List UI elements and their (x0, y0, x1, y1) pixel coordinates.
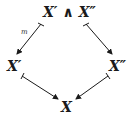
edge-label-m: m (21, 29, 28, 36)
node-right: X″ (109, 59, 126, 73)
arrow-top-to-right (86, 24, 112, 54)
node-top: X′ ∧ X″ (43, 5, 96, 19)
commutative-diagram: X′ ∧ X″ X′ X″ X m (0, 0, 134, 116)
node-bottom: X (61, 100, 72, 114)
node-left: X′ (7, 59, 22, 73)
arrow-right-to-bottom (76, 76, 108, 99)
arrow-left-to-bottom (22, 76, 58, 99)
